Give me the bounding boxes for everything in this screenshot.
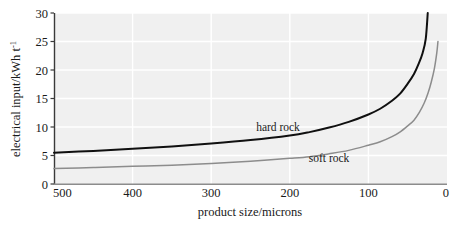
y-tick-label-10: 10 — [36, 121, 49, 135]
y-tick-label-5: 5 — [42, 149, 48, 163]
x-tick-label-100: 100 — [359, 186, 378, 200]
y-tick-label-30: 30 — [36, 7, 49, 21]
y-axis-ticks — [51, 13, 55, 184]
y-tick-label-25: 25 — [36, 35, 49, 49]
series-label-hard-rock: hard rock — [256, 121, 300, 133]
x-axis-title: product size/microns — [198, 205, 303, 219]
x-tick-label-300: 300 — [202, 186, 221, 200]
x-tick-label-400: 400 — [123, 186, 142, 200]
line-chart: 051015202530 5004003002001000 hard rock … — [0, 0, 464, 227]
x-tick-label-0: 0 — [443, 186, 449, 200]
series-label-soft-rock: soft rock — [309, 152, 350, 164]
y-tick-label-20: 20 — [36, 64, 49, 78]
x-axis-tick-labels: 5004003002001000 — [53, 186, 449, 200]
y-axis-tick-labels: 051015202530 — [36, 7, 49, 192]
y-axis-title: electrical input/kWh t-1 — [8, 41, 23, 157]
x-tick-label-500: 500 — [53, 186, 72, 200]
y-tick-label-15: 15 — [36, 92, 49, 106]
y-tick-label-0: 0 — [42, 178, 48, 192]
chart-figure: 051015202530 5004003002001000 hard rock … — [0, 0, 464, 227]
x-tick-label-200: 200 — [280, 186, 299, 200]
